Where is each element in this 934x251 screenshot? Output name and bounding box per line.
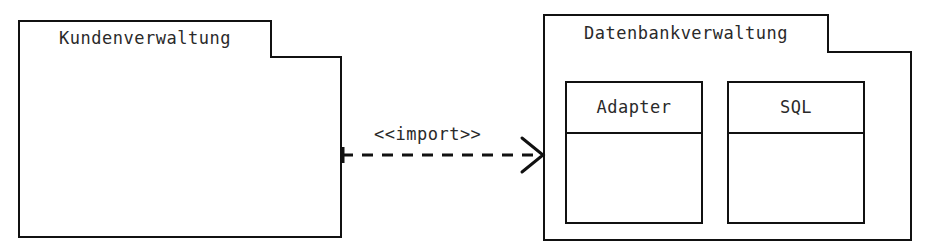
package-name-kundenverwaltung: Kundenverwaltung bbox=[59, 30, 231, 47]
package-tab-seam-kundenverwaltung bbox=[20, 55, 270, 58]
package-body-kundenverwaltung[interactable] bbox=[18, 56, 342, 238]
dependency-arrowhead bbox=[522, 138, 543, 172]
class-name-adapter: Adapter bbox=[567, 83, 701, 134]
class-name-sql: SQL bbox=[729, 83, 863, 134]
dependency-stereotype-label: <<import>> bbox=[374, 126, 481, 143]
package-tab-datenbankverwaltung[interactable]: Datenbankverwaltung bbox=[543, 14, 829, 52]
class-attributes-sql bbox=[729, 134, 863, 222]
class-attributes-adapter bbox=[567, 134, 701, 222]
uml-package-diagram-canvas: Kundenverwaltung Datenbankverwaltung Ada… bbox=[0, 0, 934, 251]
package-tab-kundenverwaltung[interactable]: Kundenverwaltung bbox=[18, 20, 272, 57]
package-name-datenbankverwaltung: Datenbankverwaltung bbox=[584, 25, 788, 42]
package-tab-seam-datenbankverwaltung bbox=[545, 50, 827, 53]
class-box-adapter[interactable]: Adapter bbox=[565, 81, 703, 224]
class-box-sql[interactable]: SQL bbox=[727, 81, 865, 224]
